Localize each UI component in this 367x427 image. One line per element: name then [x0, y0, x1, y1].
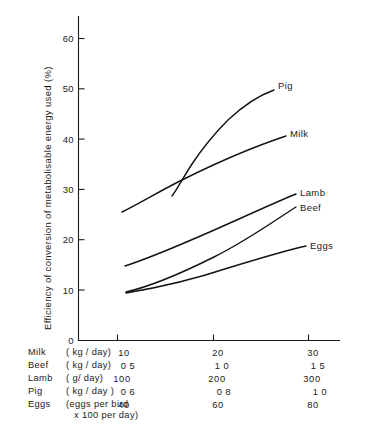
x-scale-value-beef-2: 1 0 [215, 361, 230, 371]
x-scale-row-name-eggs: Eggs [28, 399, 51, 409]
x-axis-ticks [118, 335, 309, 341]
y-axis-ticks [79, 39, 85, 291]
x-scale-row-name-beef: Beef [28, 360, 49, 370]
x-scale-row-unit2-eggs: x 100 per day) [74, 410, 138, 420]
x-scale-value-pig-3: 1 0 [313, 387, 328, 397]
x-scale-row-unit-pig: ( kg / day ) [66, 386, 114, 396]
curve-label-pig: Pig [278, 80, 293, 91]
x-scale-row-pig: Pig ( kg / day ) 0 6 0 8 1 0 [28, 386, 327, 397]
x-scale-value-lamb-3: 300 [303, 374, 320, 384]
x-scale-row-name-pig: Pig [28, 386, 43, 396]
x-scale-value-eggs-2: 60 [212, 400, 224, 410]
x-scale-row-name-lamb: Lamb [28, 373, 53, 383]
curve-label-milk: Milk [290, 128, 309, 139]
y-tick-label-10: 10 [63, 285, 74, 296]
x-scale-value-eggs-1: 40 [118, 400, 130, 410]
x-scale-row-beef: Beef ( kg / day) 0 5 1 0 1 5 [28, 360, 325, 371]
y-tick-label-20: 20 [63, 234, 74, 245]
y-tick-label-60: 60 [63, 33, 74, 44]
x-scale-value-pig-1: 0 6 [121, 387, 136, 397]
x-scale-value-lamb-2: 200 [208, 374, 225, 384]
curve-label-lamb: Lamb [300, 187, 325, 198]
curve-eggs [126, 246, 306, 293]
curve-pig [172, 90, 274, 196]
x-scale-value-milk-2: 20 [212, 348, 224, 358]
x-scale-value-lamb-1: 100 [113, 374, 130, 384]
x-scale-value-pig-2: 0 8 [217, 387, 232, 397]
y-tick-label-30: 30 [63, 184, 74, 195]
curve-beef [126, 207, 296, 292]
y-axis-title: Efficiency of conversion of metabolisabl… [42, 66, 53, 330]
y-tick-label-40: 40 [63, 134, 74, 145]
x-scale-value-milk-1: 10 [118, 348, 130, 358]
y-tick-label-50: 50 [63, 83, 74, 94]
efficiency-conversion-line-chart: 60 50 40 30 20 10 0 Efficiency of conver… [0, 0, 367, 427]
x-scale-value-beef-1: 0 5 [121, 361, 136, 371]
x-scale-row-unit-beef: ( kg / day) [66, 360, 111, 370]
curve-label-eggs: Eggs [310, 240, 333, 251]
y-tick-label-0: 0 [68, 335, 74, 346]
chart-figure: 60 50 40 30 20 10 0 Efficiency of conver… [0, 0, 367, 427]
x-scale-value-beef-3: 1 5 [311, 361, 326, 371]
x-scale-row-eggs: Eggs (eggs per bird x 100 per day) 40 60… [28, 399, 319, 420]
x-axis-scale-table: Milk ( kg / day) 10 20 30 Beef ( kg / da… [28, 347, 327, 420]
x-scale-value-milk-3: 30 [307, 348, 319, 358]
x-scale-row-lamb: Lamb ( g/ day) 100 200 300 [28, 373, 321, 384]
x-scale-row-unit-lamb: ( g/ day) [66, 373, 103, 383]
x-scale-row-unit-milk: ( kg / day) [66, 347, 111, 357]
curve-label-beef: Beef [300, 202, 321, 213]
x-scale-row-name-milk: Milk [28, 347, 46, 357]
x-scale-row-milk: Milk ( kg / day) 10 20 30 [28, 347, 319, 358]
x-scale-value-eggs-3: 80 [307, 400, 319, 410]
